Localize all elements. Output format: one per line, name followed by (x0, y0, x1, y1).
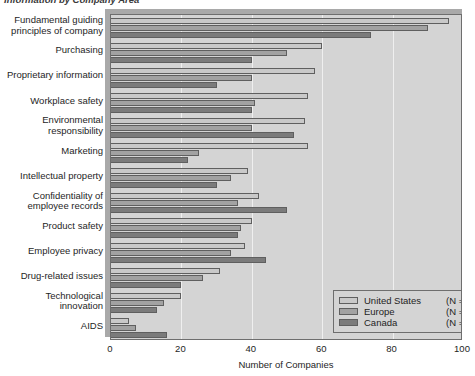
legend-label: Canada (364, 317, 446, 328)
legend-label: United States (364, 295, 446, 306)
bar-europe (111, 100, 255, 106)
y-axis-label: AIDS (81, 321, 103, 332)
bar-europe (111, 300, 164, 306)
y-axis-label: Intellectual property (20, 171, 103, 182)
y-axis-label: Environmental responsibility (42, 115, 103, 136)
bar-canada (111, 207, 287, 213)
bar-us (111, 218, 252, 224)
legend-row: Europe(N = 20) (339, 306, 462, 317)
legend-sample-size: (N = 20) (446, 306, 462, 317)
figure-title-strip: Information by Company Area (0, 0, 475, 9)
legend-label: Europe (364, 306, 446, 317)
bar-canada (111, 282, 181, 288)
legend-sample-size: (N = 23) (446, 317, 462, 328)
y-axis-label: Product safety (42, 221, 103, 232)
bar-europe (111, 150, 199, 156)
x-axis-tick-label: 100 (454, 343, 470, 354)
bar-us (111, 318, 129, 324)
bar-europe (111, 250, 231, 256)
bar-europe (111, 275, 203, 281)
bar-canada (111, 157, 188, 163)
y-axis-label: Workplace safety (30, 96, 103, 107)
y-axis-label: Drug-related issues (21, 271, 103, 282)
bar-us (111, 18, 449, 24)
bar-canada (111, 32, 371, 38)
bar-canada (111, 82, 217, 88)
bar-us (111, 43, 322, 49)
y-axis-label: Employee privacy (28, 246, 103, 257)
bar-europe (111, 325, 136, 331)
bar-canada (111, 107, 252, 113)
gridline (252, 15, 253, 339)
legend-swatch-us (339, 297, 358, 304)
bar-canada (111, 257, 266, 263)
x-axis-title: Number of Companies (110, 359, 462, 370)
bar-us (111, 68, 315, 74)
bar-europe (111, 200, 238, 206)
x-axis-tick-label: 40 (246, 343, 257, 354)
y-axis-category-labels: Fundamental guiding principles of compan… (0, 14, 107, 340)
legend-row: United States(N = 157) (339, 295, 462, 306)
x-axis-tick-label: 60 (316, 343, 327, 354)
bar-canada (111, 232, 238, 238)
bar-canada (111, 307, 157, 313)
bar-us (111, 118, 305, 124)
bar-europe (111, 125, 252, 131)
bar-us (111, 143, 308, 149)
bar-us (111, 268, 220, 274)
gridline (322, 15, 323, 339)
y-axis-label: Purchasing (55, 45, 103, 56)
x-axis-tick-label: 20 (175, 343, 186, 354)
bar-europe (111, 75, 252, 81)
legend-swatch-europe (339, 308, 358, 315)
x-axis-ticks: 020406080100 (0, 343, 475, 357)
legend-swatch-canada (339, 319, 358, 326)
bar-us (111, 168, 248, 174)
bar-us (111, 243, 245, 249)
y-axis-label: Fundamental guiding principles of compan… (11, 15, 103, 36)
bar-us (111, 193, 259, 199)
y-axis-label: Technological innovation (45, 291, 103, 312)
figure-title: Information by Company Area (4, 0, 139, 5)
chart-figure: Information by Company Area Fundamental … (0, 0, 475, 376)
legend-row: Canada(N = 23) (339, 317, 462, 328)
bar-europe (111, 50, 287, 56)
bar-us (111, 293, 181, 299)
bar-canada (111, 332, 167, 338)
x-axis-tick-label: 0 (107, 343, 112, 354)
bar-canada (111, 132, 294, 138)
bar-us (111, 93, 308, 99)
y-axis-label: Proprietary information (7, 70, 103, 81)
bar-europe (111, 25, 428, 31)
legend-sample-size: (N = 157) (446, 295, 462, 306)
chart-legend: United States(N = 157)Europe(N = 20)Cana… (333, 290, 462, 333)
plot-area: United States(N = 157)Europe(N = 20)Cana… (110, 14, 462, 340)
bar-canada (111, 57, 252, 63)
bar-europe (111, 225, 241, 231)
x-axis-tick-label: 80 (386, 343, 397, 354)
bar-canada (111, 182, 217, 188)
bar-europe (111, 175, 231, 181)
y-axis-label: Marketing (61, 146, 103, 157)
y-axis-label: Confidentiality of employee records (27, 191, 103, 212)
